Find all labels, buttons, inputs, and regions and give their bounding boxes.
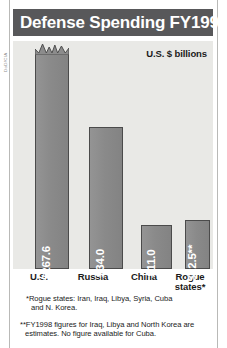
bar-value-us: $267.6 [40,246,52,280]
broken-axis-tear-icon [35,44,69,55]
category-label-us-line1: U.S. [19,272,59,282]
footnote-estimates-line2: estimates. No figure available for Cuba. [20,329,210,338]
defense-spending-chart-figure: DoD/CIA Defense Spending FY1998 U.S. $ b… [0,0,227,348]
category-label-rogue-states-line2: states* [168,282,212,292]
footnote-estimates-line1: **FY1998 figures for Iraq, Libya and Nor… [20,320,194,329]
bar-china: $11.0 [141,225,172,269]
bar-russia: $34.0 [89,127,123,269]
bar-us: $267.6 [35,53,69,269]
column-rule-right [217,0,218,348]
units-label: U.S. $ billions [146,48,207,59]
category-label-russia-line1: Russia [70,272,116,282]
category-label-china-line1: China [123,272,165,282]
category-label-russia: Russia [70,272,116,282]
chart-title: Defense Spending FY1998 [20,13,227,33]
bar-value-china: $11.0 [145,249,157,276]
category-label-china: China [123,272,165,282]
source-credit-vertical: DoD/CIA [1,12,11,72]
footnote-rogue-states-line2: and N. Korea. [26,303,206,312]
plot-area: U.S. $ billions $267.6 $34.0 $11.0 $12.5… [13,41,213,269]
chart-title-bar: Defense Spending FY1998 [13,9,213,36]
category-label-us: U.S. [19,272,59,282]
bar-value-russia: $34.0 [94,249,106,277]
bar-rogue-states: $12.5** [185,220,210,269]
footnote-rogue-states-line1: *Rogue states: Iran, Iraq, Libya, Syria,… [26,294,172,303]
footnote-estimates: **FY1998 figures for Iraq, Libya and Nor… [20,320,210,338]
footnote-rogue-states: *Rogue states: Iran, Iraq, Libya, Syria,… [26,294,206,312]
bar-value-rogue-states: $12.5** [186,245,198,281]
